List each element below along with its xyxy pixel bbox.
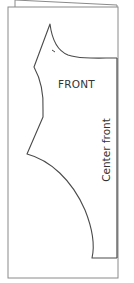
center-front-label: Center front [100,118,112,182]
pattern-diagram: FRONT Center front [0,0,134,283]
pattern-svg [0,0,134,283]
piece-name-label: FRONT [58,78,95,90]
